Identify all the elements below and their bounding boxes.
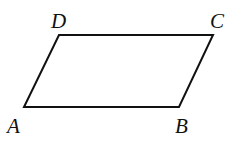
vertex-label-c: C [210,9,225,33]
vertex-label-a: A [5,114,20,138]
parallelogram-abcd [24,35,213,107]
vertex-label-b: B [175,114,188,138]
parallelogram-diagram: A B C D [0,0,238,145]
vertex-label-d: D [50,9,66,33]
